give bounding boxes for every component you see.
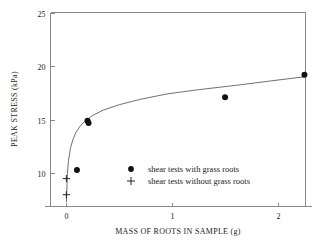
data-points-with-roots [74,72,307,173]
y-axis-title: PEAK STRESS (kPa) [10,71,19,147]
legend-marker-circle [128,166,134,172]
scatter-plot: 10152025 012 MASS OF ROOTS IN SAMPLE (g)… [0,0,330,250]
x-axis-ticks: 012 [65,203,281,221]
y-tick-label: 25 [38,10,46,19]
data-points-without-roots [63,175,70,198]
y-tick-label: 20 [38,63,46,72]
data-point-dot [86,120,92,126]
legend-label-with-roots: shear tests with grass roots [148,164,239,174]
chart-figure: 10152025 012 MASS OF ROOTS IN SAMPLE (g)… [0,0,330,250]
x-axis-title: MASS OF ROOTS IN SAMPLE (g) [115,227,241,236]
legend-label-without-roots: shear tests without grass roots [148,176,250,186]
legend: shear tests with grass roots shear tests… [127,164,250,186]
data-point-dot [74,167,80,173]
data-point-dot [301,72,307,78]
x-tick-label: 2 [277,212,281,221]
y-tick-label: 15 [38,117,46,126]
x-tick-label: 1 [171,212,175,221]
data-point-plus [63,175,70,182]
y-tick-label: 10 [38,170,46,179]
y-axis-ticks: 10152025 [38,10,55,179]
data-point-dot [222,94,228,100]
data-point-plus [63,191,70,198]
legend-marker-plus [127,177,135,185]
x-tick-label: 0 [65,212,69,221]
